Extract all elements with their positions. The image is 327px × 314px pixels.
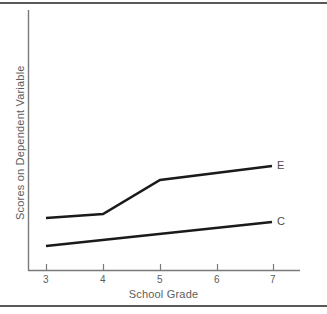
plot-area bbox=[0, 0, 327, 314]
x-tick-label-7: 7 bbox=[263, 274, 283, 285]
series-line-e bbox=[46, 166, 272, 218]
series-label-c: C bbox=[277, 215, 285, 227]
series-label-e: E bbox=[277, 159, 284, 171]
x-axis-ticks bbox=[47, 264, 274, 270]
series-line-c bbox=[46, 222, 272, 246]
x-axis-title: School Grade bbox=[0, 288, 327, 300]
x-tick-label-4: 4 bbox=[93, 274, 113, 285]
y-axis-title: Scores on Dependent Variable bbox=[14, 65, 26, 220]
chart-figure: 3 4 5 6 7 E C School Grade Scores on Dep… bbox=[0, 0, 327, 314]
x-tick-label-6: 6 bbox=[207, 274, 227, 285]
x-tick-label-5: 5 bbox=[150, 274, 170, 285]
x-tick-label-3: 3 bbox=[36, 274, 56, 285]
